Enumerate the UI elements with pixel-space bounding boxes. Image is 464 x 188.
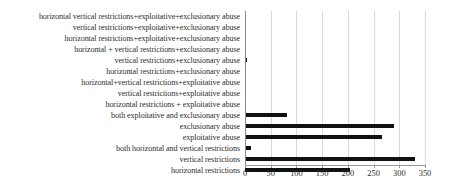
bar[interactable] bbox=[245, 135, 382, 139]
value-axis-zero-line bbox=[245, 11, 246, 165]
category-label: exploitative abuse bbox=[0, 132, 243, 143]
bar[interactable] bbox=[245, 113, 287, 117]
category-label: horizontal+vertical restrictions+exploit… bbox=[0, 77, 243, 88]
bar-row bbox=[245, 132, 425, 143]
horizontal-bar-chart: horizontal vertical restrictions+exploit… bbox=[0, 0, 464, 188]
category-axis: horizontal vertical restrictions+exploit… bbox=[0, 11, 243, 165]
tick-mark bbox=[245, 165, 246, 168]
category-label: horizontal restrictions+exploitative+exc… bbox=[0, 33, 243, 44]
category-label: both horizontal and vertical restriction… bbox=[0, 143, 243, 154]
plot-area bbox=[245, 11, 425, 165]
tick-mark bbox=[271, 165, 272, 168]
category-label: vertical restrictions+exploitative+exclu… bbox=[0, 22, 243, 33]
category-label: horizontal restrictions bbox=[0, 165, 243, 176]
category-label: vertical restrictions+exclusionary abuse bbox=[0, 55, 243, 66]
bar[interactable] bbox=[245, 157, 415, 161]
category-label: horizontal + vertical restrictions+exclu… bbox=[0, 44, 243, 55]
category-label: vertical restrictions+exploitative abuse bbox=[0, 88, 243, 99]
category-label: horizontal restrictions+exclusionary abu… bbox=[0, 66, 243, 77]
bar-row bbox=[245, 22, 425, 33]
tick-mark bbox=[296, 165, 297, 168]
bar[interactable] bbox=[245, 124, 394, 128]
bar-row bbox=[245, 11, 425, 22]
category-label: both exploitative and exclusionary abuse bbox=[0, 110, 243, 121]
bar-row bbox=[245, 121, 425, 132]
bar-row bbox=[245, 154, 425, 165]
bar-row bbox=[245, 44, 425, 55]
tick-mark bbox=[399, 165, 400, 168]
bar-row bbox=[245, 55, 425, 66]
tick-mark bbox=[322, 165, 323, 168]
bar-row bbox=[245, 88, 425, 99]
bar-row bbox=[245, 33, 425, 44]
bars-series bbox=[245, 11, 425, 165]
bar-row bbox=[245, 143, 425, 154]
bar-row bbox=[245, 77, 425, 88]
bar-row bbox=[245, 110, 425, 121]
bar-row bbox=[245, 66, 425, 77]
category-label: horizontal restrictions + exploitative a… bbox=[0, 99, 243, 110]
gridline bbox=[425, 11, 426, 165]
tick-label: 350 bbox=[410, 169, 440, 179]
tick-mark bbox=[348, 165, 349, 168]
value-axis-baseline bbox=[245, 165, 425, 166]
tick-mark bbox=[425, 165, 426, 168]
category-label: exclusionary abuse bbox=[0, 121, 243, 132]
category-label: vertical restrictions bbox=[0, 154, 243, 165]
bar-row bbox=[245, 99, 425, 110]
category-label: horizontal vertical restrictions+exploit… bbox=[0, 11, 243, 22]
tick-mark bbox=[374, 165, 375, 168]
